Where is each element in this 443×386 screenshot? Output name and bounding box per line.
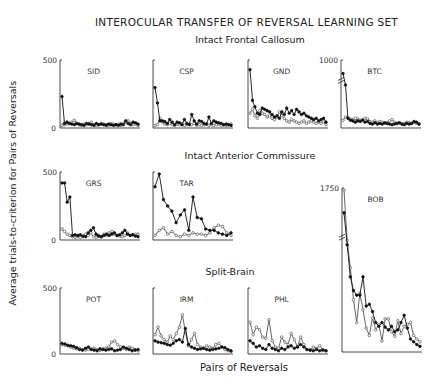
filled-marker bbox=[200, 120, 203, 123]
filled-marker bbox=[284, 348, 287, 351]
filled-marker bbox=[67, 344, 70, 347]
open-marker bbox=[280, 336, 283, 339]
filled-marker bbox=[126, 233, 129, 236]
open-marker bbox=[290, 332, 293, 335]
open-marker bbox=[73, 119, 76, 122]
filled-marker bbox=[93, 124, 96, 127]
filled-marker bbox=[179, 214, 182, 217]
filled-marker bbox=[362, 276, 365, 279]
filled-marker bbox=[105, 349, 108, 352]
panel-bob: 1750BOB bbox=[320, 184, 422, 352]
filled-marker bbox=[281, 111, 284, 114]
filled-marker bbox=[131, 234, 134, 237]
panel-grs: 5000GRS bbox=[43, 168, 140, 245]
filled-marker bbox=[188, 123, 191, 126]
open-marker bbox=[251, 108, 254, 111]
filled-marker bbox=[61, 182, 64, 185]
open-marker bbox=[154, 234, 157, 237]
panel-name: POT bbox=[86, 295, 101, 304]
open-marker bbox=[268, 318, 271, 321]
panel-name: PHL bbox=[274, 295, 289, 304]
open-marker bbox=[217, 224, 220, 227]
filled-marker bbox=[415, 121, 418, 124]
filled-marker bbox=[252, 342, 255, 345]
filled-marker bbox=[251, 99, 254, 102]
open-marker bbox=[192, 232, 195, 235]
filled-marker bbox=[227, 348, 230, 351]
filled-marker bbox=[271, 113, 274, 116]
filled-marker bbox=[129, 234, 132, 237]
filled-marker bbox=[318, 349, 321, 352]
filled-marker bbox=[325, 349, 328, 352]
filled-marker bbox=[218, 347, 221, 350]
filled-marker bbox=[199, 348, 202, 351]
open-marker bbox=[384, 318, 387, 321]
filled-marker bbox=[162, 198, 165, 201]
open-marker bbox=[284, 341, 287, 344]
filled-marker bbox=[230, 232, 233, 235]
y-tick-max: 1750 bbox=[320, 184, 339, 193]
filled-marker bbox=[69, 196, 72, 199]
open-marker bbox=[412, 334, 415, 337]
filled-marker bbox=[366, 120, 369, 123]
open-marker bbox=[368, 334, 371, 337]
filled-marker bbox=[400, 321, 403, 324]
filled-marker bbox=[181, 341, 184, 344]
filled-marker bbox=[125, 347, 128, 350]
filled-marker bbox=[97, 235, 100, 238]
filled-marker bbox=[293, 113, 296, 116]
filled-marker bbox=[387, 329, 390, 332]
filled-marker bbox=[154, 86, 157, 89]
filled-marker bbox=[175, 221, 178, 224]
panel-irm: IRM bbox=[153, 288, 233, 354]
filled-marker bbox=[192, 196, 195, 199]
open-marker bbox=[121, 235, 124, 238]
filled-marker bbox=[193, 120, 196, 123]
panel-name: IRM bbox=[180, 295, 194, 304]
open-marker bbox=[303, 120, 306, 123]
open-marker bbox=[215, 343, 218, 346]
filled-marker bbox=[113, 232, 116, 235]
filled-marker bbox=[293, 347, 296, 350]
filled-marker bbox=[315, 117, 318, 120]
filled-marker bbox=[274, 348, 277, 351]
open-marker bbox=[61, 228, 64, 231]
open-marker bbox=[312, 346, 315, 349]
filled-marker bbox=[69, 345, 72, 348]
filled-marker bbox=[168, 118, 171, 121]
open-marker bbox=[365, 327, 368, 330]
filled-marker bbox=[390, 325, 393, 328]
filled-marker bbox=[103, 234, 106, 237]
y-tick-max: 500 bbox=[43, 284, 58, 293]
filled-marker bbox=[298, 111, 301, 114]
filled-marker bbox=[342, 72, 345, 75]
filled-marker bbox=[166, 122, 169, 125]
filled-marker bbox=[116, 234, 119, 237]
open-marker bbox=[156, 123, 159, 126]
filled-marker bbox=[268, 343, 271, 346]
filled-marker bbox=[71, 234, 74, 237]
filled-marker bbox=[371, 310, 374, 313]
panel-btc: 1000BTC bbox=[319, 56, 421, 128]
open-marker bbox=[110, 341, 113, 344]
filled-marker bbox=[361, 119, 364, 122]
filled-marker bbox=[224, 346, 227, 349]
open-marker bbox=[172, 338, 175, 341]
open-marker bbox=[249, 321, 252, 324]
open-marker bbox=[299, 336, 302, 339]
filled-marker bbox=[84, 235, 87, 238]
filled-marker bbox=[217, 232, 220, 235]
open-marker bbox=[200, 233, 203, 236]
open-marker bbox=[221, 225, 224, 228]
filled-marker bbox=[295, 108, 298, 111]
open-marker bbox=[366, 118, 369, 121]
filled-marker bbox=[349, 276, 352, 279]
filled-marker bbox=[72, 345, 75, 348]
filled-marker bbox=[158, 173, 161, 176]
open-marker bbox=[171, 230, 174, 233]
filled-marker bbox=[378, 325, 381, 328]
open-marker bbox=[187, 234, 190, 237]
open-marker bbox=[179, 235, 182, 238]
filled-marker bbox=[344, 84, 347, 87]
filled-marker bbox=[325, 121, 328, 124]
